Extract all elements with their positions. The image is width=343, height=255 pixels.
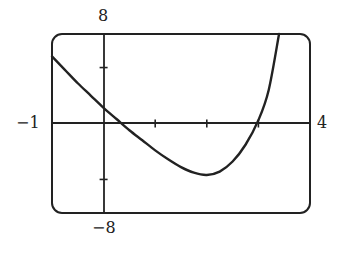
function-curve [52, 34, 279, 175]
graph-window [0, 0, 343, 255]
x-max-label: 4 [317, 113, 327, 132]
y-min-label: −8 [92, 218, 116, 237]
x-min-label: −1 [16, 113, 40, 132]
y-max-label: 8 [98, 6, 108, 25]
